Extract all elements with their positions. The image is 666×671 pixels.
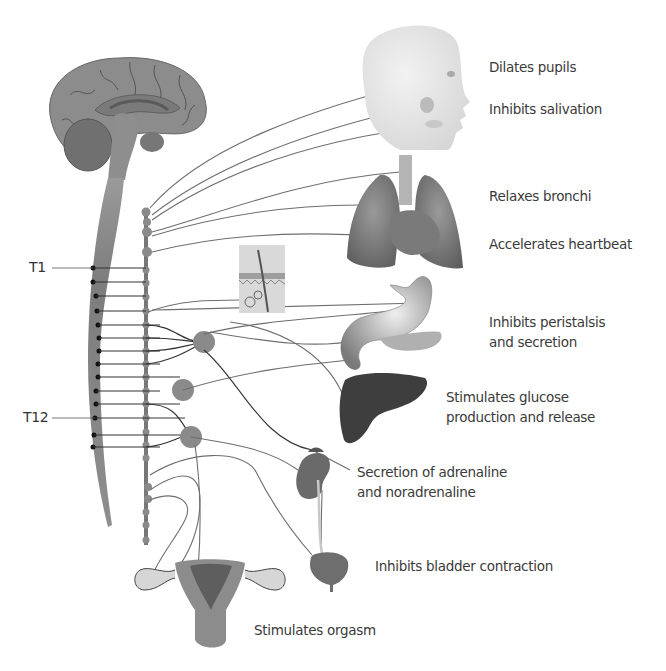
- effect-inhibits-bladder-contraction: Inhibits bladder contraction: [375, 556, 553, 576]
- brain: [50, 58, 207, 180]
- effect-stimulates-orgasm: Stimulates orgasm: [254, 620, 376, 640]
- liver: [340, 373, 427, 443]
- head-profile: [363, 26, 470, 150]
- effect-dilates-pupils: Dilates pupils: [489, 57, 576, 77]
- effect-inhibits-salivation: Inhibits salivation: [489, 99, 602, 119]
- effect-accelerates-heartbeat: Accelerates heartbeat: [489, 234, 632, 254]
- celiac-ganglion: [193, 331, 215, 353]
- effect-inhibits-peristalsis-line1: Inhibits peristalsis: [489, 312, 605, 332]
- sympathetic-nervous-system-diagram: T1 T12 Dilates pupils Inhibits salivatio…: [0, 0, 666, 671]
- eye: [447, 71, 455, 77]
- effect-inhibits-peristalsis-line2: and secretion: [489, 332, 577, 352]
- skin-inset: [239, 245, 285, 313]
- trachea: [399, 155, 412, 205]
- bladder: [310, 552, 348, 592]
- spinal-cord: [88, 178, 124, 527]
- stomach-and-pancreas: [341, 277, 442, 370]
- adrenal-gland: [308, 448, 324, 453]
- effect-adrenaline-line1: Secretion of adrenaline: [357, 462, 507, 482]
- effect-glucose-line1: Stimulates glucose: [446, 387, 569, 407]
- t12-label: T12: [23, 407, 48, 427]
- effect-glucose-line2: production and release: [446, 407, 595, 427]
- parotid-gland: [420, 97, 434, 113]
- effect-adrenaline-line2: and noradrenaline: [357, 482, 476, 502]
- kidney-and-adrenal: [296, 448, 330, 556]
- lungs-and-heart: [347, 155, 463, 268]
- t1-label: T1: [29, 257, 46, 277]
- effect-relaxes-bronchi: Relaxes bronchi: [489, 186, 591, 206]
- sympathetic-chain: [142, 208, 153, 546]
- submandibular-gland: [425, 120, 443, 128]
